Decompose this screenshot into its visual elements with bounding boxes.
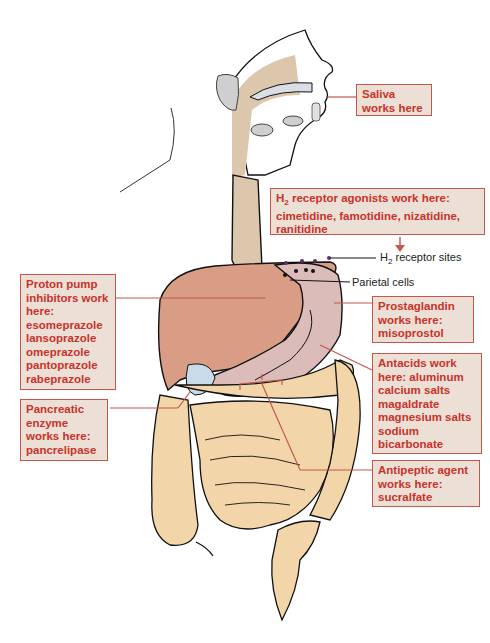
rectum [272, 521, 320, 620]
h2-agonists-text: receptor agonists work here: cimetidine,… [276, 192, 460, 235]
salivary-gland-sub [251, 124, 273, 136]
label-prostaglandin: Prostaglandin works here: misoprostol [372, 296, 474, 343]
ascending-colon [152, 395, 198, 545]
label-h2-agonists: H2 receptor agonists work here: cimetidi… [270, 188, 485, 235]
appendix [196, 542, 213, 556]
salivary-gland-parotid [216, 74, 238, 110]
shoulder-outline [120, 108, 174, 192]
label-antipeptic-agent: Antipeptic agent works here: sucralfate [372, 460, 480, 507]
label-proton-pump-inhibitors: Proton pump inhibitors work here: esomep… [20, 274, 116, 390]
esophagus [232, 175, 262, 272]
label-antacids: Antacids work here: aluminum calcium sal… [372, 353, 482, 454]
label-saliva: Saliva works here [356, 84, 432, 116]
label-pancreatic-enzyme: Pancreatic enzyme works here: pancrelipa… [20, 399, 108, 461]
h2-receptor-sites-label: H2 receptor sites [380, 251, 462, 266]
small-intestine [190, 401, 333, 529]
intestines [152, 360, 360, 620]
head [216, 30, 332, 178]
parietal-cells-label: Parietal cells [352, 276, 414, 288]
